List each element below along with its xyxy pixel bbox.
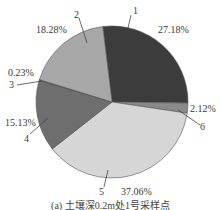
pie-slices xyxy=(36,26,188,178)
slice-1-percent: 27.18% xyxy=(158,25,189,35)
slice-1-number: 1 xyxy=(133,6,138,16)
slice-4-number: 4 xyxy=(24,134,29,144)
pie-slice-1 xyxy=(103,26,188,103)
slice-6-percent: 2.12% xyxy=(190,104,216,114)
slice-2-percent: 18.28% xyxy=(36,25,67,35)
slice-2-number: 2 xyxy=(74,10,79,20)
slice-5-percent: 37.06% xyxy=(121,187,152,197)
slice-3-percent: 0.23% xyxy=(8,68,34,78)
slice-4-percent: 15.13% xyxy=(5,118,36,128)
slice-5-number: 5 xyxy=(99,187,104,197)
slice-3-number: 3 xyxy=(9,80,14,90)
chart-caption: (a) 土壤深0.2m处1号采样点 xyxy=(0,201,221,210)
slice-6-number: 6 xyxy=(200,122,205,132)
